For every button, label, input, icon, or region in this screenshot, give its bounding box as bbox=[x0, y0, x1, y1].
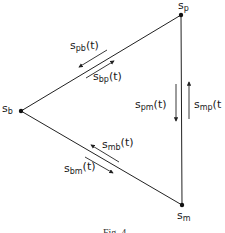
node-sb-label: sb bbox=[2, 102, 13, 116]
node-sb-dot bbox=[19, 109, 23, 113]
node-sm-label: sm bbox=[177, 209, 191, 223]
edge-b-m bbox=[21, 111, 182, 205]
flow-label-sbm: sbm(t) bbox=[64, 160, 96, 176]
node-sm-dot bbox=[180, 203, 184, 207]
node-sp-dot bbox=[179, 13, 183, 17]
edge-p-b bbox=[21, 15, 181, 111]
flow-label-smp: smp(t bbox=[194, 98, 222, 112]
flow-label-spm: spm(t) bbox=[135, 98, 167, 112]
flow-label-spb: spb(t) bbox=[70, 39, 99, 53]
figure-caption: Fig. 4 bbox=[103, 227, 126, 233]
triangle-diagram: sp sb sm spb(t) sbp(t) spm(t) smp(t smb(… bbox=[0, 0, 225, 233]
edge-p-m bbox=[181, 15, 182, 205]
flow-label-sbp: sbp(t) bbox=[93, 70, 122, 84]
flow-label-smb: smb(t) bbox=[102, 136, 134, 152]
node-sp-label: sp bbox=[178, 0, 189, 13]
